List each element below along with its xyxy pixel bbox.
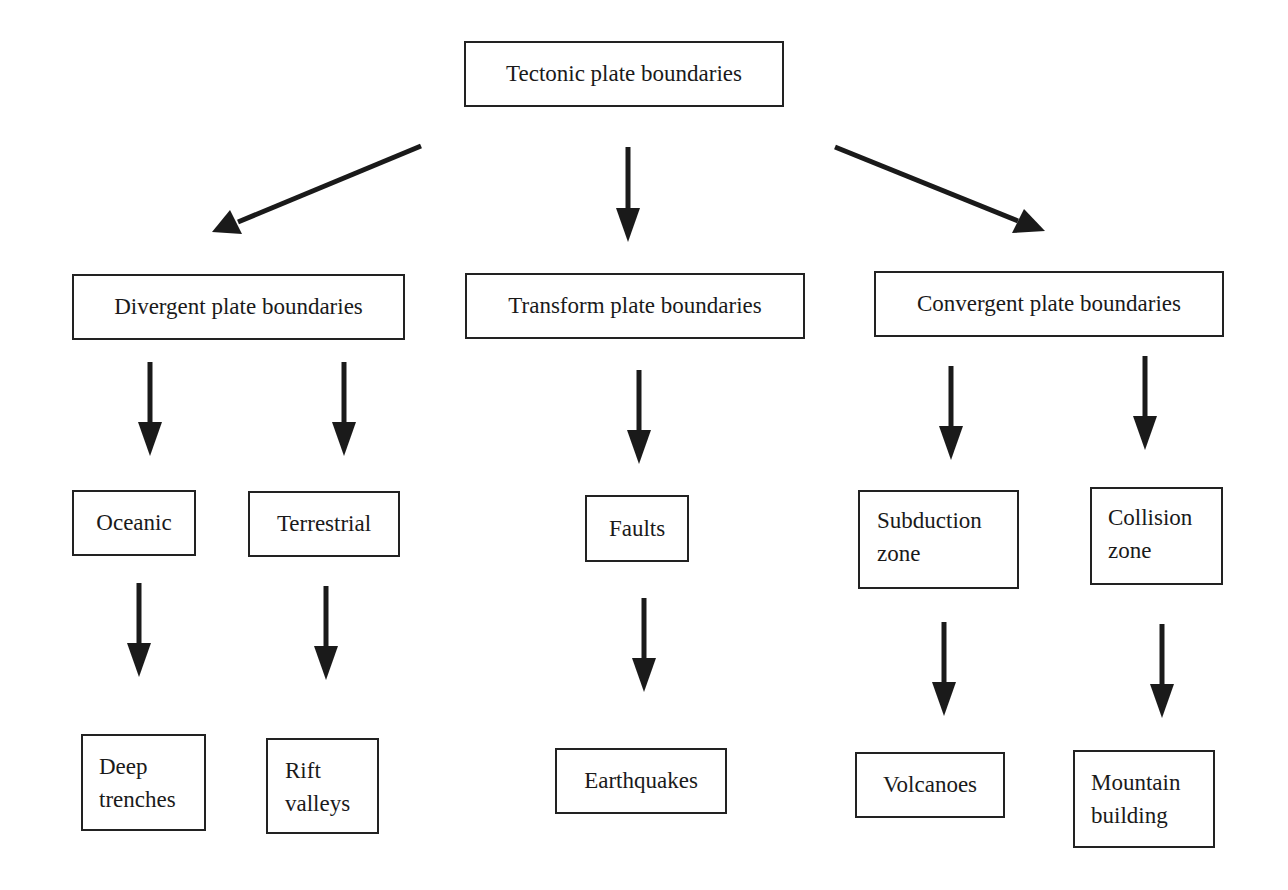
arrow-convergent-to-collision [1133,356,1157,450]
node-label-line-1: Collision [1108,501,1205,534]
node-label: Divergent plate boundaries [114,290,363,323]
node-collision-zone: Collision zone [1090,487,1223,585]
node-label-line-1: Mountain [1091,766,1197,799]
node-label: Tectonic plate boundaries [506,57,742,90]
node-faults: Faults [585,495,689,562]
node-label: Transform plate boundaries [508,289,761,322]
node-label-line-2: building [1091,799,1197,832]
arrow-oceanic-to-deep-trenches [127,583,151,677]
node-earthquakes: Earthquakes [555,748,727,814]
node-subduction-zone: Subduction zone [858,490,1019,589]
node-label: Convergent plate boundaries [917,287,1181,320]
arrow-divergent-to-oceanic [138,362,162,456]
node-transform-plate-boundaries: Transform plate boundaries [465,273,805,339]
node-divergent-plate-boundaries: Divergent plate boundaries [72,274,405,340]
node-tectonic-plate-boundaries: Tectonic plate boundaries [464,41,784,107]
node-label-line-1: Deep [99,750,188,783]
node-label: Oceanic [96,506,171,539]
node-label: Terrestrial [277,507,371,540]
node-label-line-2: zone [1108,534,1205,567]
arrow-subduction-to-volcanoes [932,622,956,716]
arrow-terrestrial-to-rift-valleys [314,586,338,680]
node-label: Earthquakes [584,764,698,797]
arrow-convergent-to-subduction [939,366,963,460]
node-rift-valleys: Rift valleys [266,738,379,834]
node-label-line-1: Rift [285,754,361,787]
node-terrestrial: Terrestrial [248,491,400,557]
arrow-root-to-transform [616,147,640,242]
node-label: Volcanoes [883,768,977,801]
node-label-line-2: zone [877,537,1001,570]
arrow-root-to-divergent [212,146,421,234]
node-deep-trenches: Deep trenches [81,734,206,831]
node-mountain-building: Mountain building [1073,750,1215,848]
node-label-line-1: Subduction [877,504,1001,537]
arrow-transform-to-faults [627,370,651,464]
node-label-line-2: trenches [99,783,188,816]
arrow-divergent-to-terrestrial [332,362,356,456]
arrow-faults-to-earthquakes [632,598,656,692]
node-label: Faults [609,512,665,545]
node-volcanoes: Volcanoes [855,752,1005,818]
node-oceanic: Oceanic [72,490,196,556]
arrow-root-to-convergent [835,147,1045,233]
node-label-line-2: valleys [285,787,361,820]
arrow-collision-to-mountain-building [1150,624,1174,718]
node-convergent-plate-boundaries: Convergent plate boundaries [874,271,1224,337]
